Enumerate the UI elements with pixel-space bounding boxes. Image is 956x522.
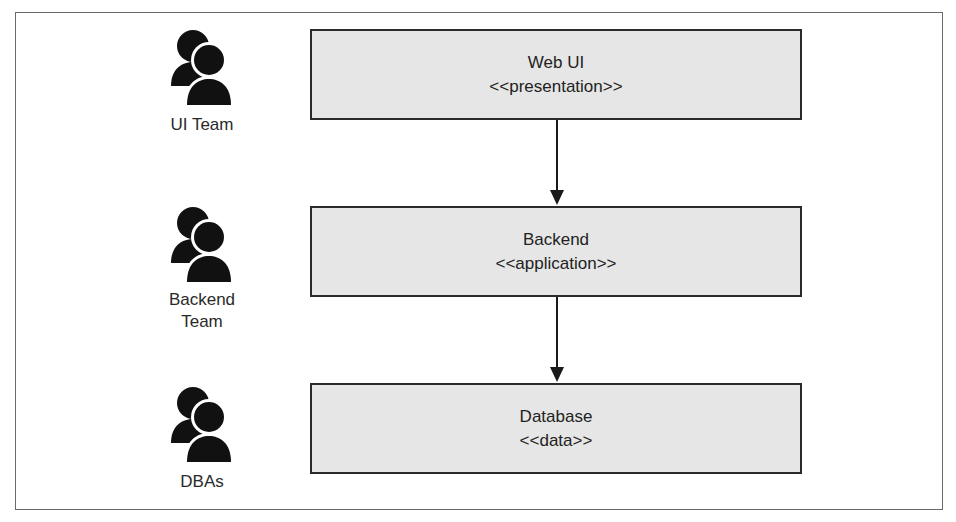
people-icon [169,385,235,463]
arrow-backend-to-database [550,297,564,382]
team-label-line2: Team [150,311,254,333]
team-label: DBAs [150,471,254,493]
team-label: UI Team [150,114,254,136]
people-icon [169,28,235,106]
connector-arrows [0,0,956,522]
team-backend: Backend Team [150,205,254,333]
team-dbas: DBAs [150,385,254,493]
team-label-line1: Backend [150,289,254,311]
team-ui: UI Team [150,28,254,136]
people-icon [169,205,235,283]
arrow-webui-to-backend [550,120,564,205]
